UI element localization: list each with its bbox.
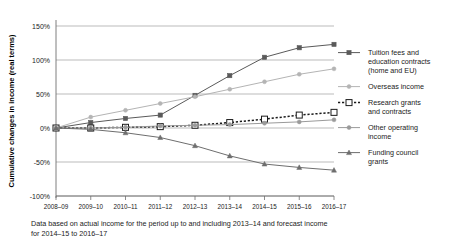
legend-item-2[interactable]: Research grantsand contracts	[338, 98, 421, 116]
legend-label: and contracts	[368, 107, 412, 116]
legend-label: income	[368, 132, 391, 141]
legend-item-1[interactable]: Overseas income	[338, 82, 424, 91]
data-point	[158, 113, 162, 117]
data-point	[331, 109, 337, 115]
legend-label: Tuition fees and	[368, 48, 419, 57]
data-point	[123, 116, 127, 120]
chart-figure: 150%100%50%0%-50%-100%2008–092009–102010…	[0, 0, 463, 248]
data-point	[332, 67, 336, 71]
data-point	[347, 51, 351, 55]
data-point	[124, 108, 128, 112]
data-point	[193, 123, 197, 127]
footnote-line: for 2014–15 to 2016–17	[31, 229, 107, 238]
y-tick-label: -100%	[30, 193, 50, 200]
legend-label: Other operating	[368, 123, 418, 132]
legend-item-4[interactable]: Funding councilgrants	[338, 148, 419, 166]
legend-item-0[interactable]: Tuition fees andeducation contracts(home…	[338, 48, 431, 75]
x-tick-label: 2009–10	[78, 203, 103, 210]
x-tick-label: 2013–14	[217, 203, 242, 210]
series-0	[54, 42, 336, 130]
data-point	[89, 115, 93, 119]
data-point	[124, 125, 128, 129]
data-point	[297, 72, 301, 76]
data-point	[297, 46, 301, 50]
y-tick-label: 100%	[32, 57, 50, 64]
y-tick-label: 0%	[40, 125, 50, 132]
legend-label: (home and EU)	[368, 66, 417, 75]
data-point	[332, 118, 336, 122]
footnote-line: Data based on actual income for the peri…	[31, 219, 327, 228]
data-point	[228, 74, 232, 78]
x-axis-ticks: 2008–092009–102010–112011–122012–132013–…	[44, 196, 347, 210]
data-point	[193, 95, 197, 99]
data-point	[297, 120, 301, 124]
series-4	[54, 125, 337, 172]
data-point	[89, 120, 93, 124]
legend: Tuition fees andeducation contracts(home…	[338, 48, 431, 166]
legend-item-3[interactable]: Other operatingincome	[338, 123, 418, 141]
legend-label: education contracts	[368, 57, 431, 66]
data-point	[263, 121, 267, 125]
y-tick-label: -50%	[34, 159, 50, 166]
data-point	[296, 112, 302, 118]
x-tick-label: 2016–17	[322, 203, 347, 210]
data-point	[263, 80, 267, 84]
y-axis-title: Cumulative changes in income (real terms…	[7, 34, 16, 187]
data-point	[228, 87, 232, 91]
y-tick-label: 50%	[36, 91, 50, 98]
data-point	[346, 100, 352, 106]
data-point	[347, 85, 351, 89]
x-tick-label: 2015–16	[287, 203, 312, 210]
legend-label: grants	[368, 157, 388, 166]
legend-label: Research grants	[368, 98, 421, 107]
legend-label: Overseas income	[368, 82, 424, 91]
data-point	[158, 124, 162, 128]
line-chart: 150%100%50%0%-50%-100%2008–092009–102010…	[0, 0, 463, 248]
series-line	[56, 128, 334, 170]
y-tick-label: 150%	[32, 23, 50, 30]
gridlines: 150%100%50%0%-50%-100%	[30, 23, 334, 200]
series-1	[54, 67, 336, 130]
x-tick-label: 2011–12	[148, 203, 173, 210]
x-tick-label: 2014–15	[252, 203, 277, 210]
data-point	[332, 42, 336, 46]
data-point	[228, 123, 232, 127]
footnote: Data based on actual income for the peri…	[31, 219, 327, 238]
data-point	[158, 102, 162, 106]
x-tick-label: 2008–09	[44, 203, 69, 210]
legend-label: Funding council	[368, 148, 419, 157]
x-tick-label: 2010–11	[113, 203, 138, 210]
data-point	[347, 126, 351, 130]
data-point	[262, 55, 266, 59]
x-tick-label: 2012–13	[183, 203, 208, 210]
